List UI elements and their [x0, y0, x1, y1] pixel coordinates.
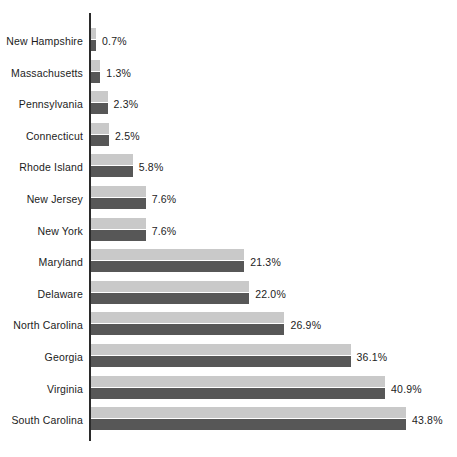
bar-light[interactable]: [91, 123, 109, 134]
category-label: New Hampshire: [0, 26, 83, 56]
bar-value-label: 21.3%: [250, 255, 281, 269]
bar-pair[interactable]: [91, 152, 133, 182]
bar-value-label: 5.8%: [139, 160, 164, 174]
bar-light[interactable]: [91, 249, 244, 260]
plot-area: New Hampshire0.7%Massachusetts1.3%Pennsy…: [0, 0, 457, 457]
bar-value-label: 0.7%: [102, 34, 127, 48]
category-label: Virginia: [0, 374, 83, 404]
bar-pair[interactable]: [91, 58, 100, 88]
bar-group[interactable]: Virginia40.9%: [0, 374, 457, 404]
bar-value-label: 40.9%: [391, 382, 422, 396]
bar-value-label: 2.3%: [114, 97, 139, 111]
bar-value-label: 43.8%: [412, 413, 443, 427]
bar-pair[interactable]: [91, 89, 108, 119]
bar-light[interactable]: [91, 376, 385, 387]
category-label: Pennsylvania: [0, 89, 83, 119]
bar-dark[interactable]: [91, 198, 146, 209]
bar-value-label: 1.3%: [106, 66, 131, 80]
bar-dark[interactable]: [91, 324, 284, 335]
bar-pair[interactable]: [91, 216, 146, 246]
category-label: New Jersey: [0, 184, 83, 214]
bar-dark[interactable]: [91, 135, 109, 146]
bar-pair[interactable]: [91, 279, 249, 309]
bar-chart: New Hampshire0.7%Massachusetts1.3%Pennsy…: [0, 0, 457, 457]
bar-value-label: 7.6%: [152, 192, 177, 206]
bar-group[interactable]: Connecticut2.5%: [0, 121, 457, 151]
bar-group[interactable]: Rhode Island5.8%: [0, 152, 457, 182]
bar-pair[interactable]: [91, 184, 146, 214]
bar-group[interactable]: Maryland21.3%: [0, 247, 457, 277]
bar-dark[interactable]: [91, 261, 244, 272]
bar-pair[interactable]: [91, 121, 109, 151]
bar-light[interactable]: [91, 344, 351, 355]
bar-light[interactable]: [91, 60, 100, 71]
bar-value-label: 36.1%: [357, 350, 388, 364]
category-label: New York: [0, 216, 83, 246]
bar-dark[interactable]: [91, 419, 406, 430]
bar-light[interactable]: [91, 281, 249, 292]
bar-dark[interactable]: [91, 388, 385, 399]
category-label: Delaware: [0, 279, 83, 309]
category-label: Connecticut: [0, 121, 83, 151]
bar-pair[interactable]: [91, 310, 284, 340]
bar-group[interactable]: North Carolina26.9%: [0, 310, 457, 340]
bar-dark[interactable]: [91, 356, 351, 367]
category-label: Georgia: [0, 342, 83, 372]
bar-dark[interactable]: [91, 293, 249, 304]
bar-light[interactable]: [91, 28, 96, 39]
bar-value-label: 2.5%: [115, 129, 140, 143]
bar-light[interactable]: [91, 407, 406, 418]
category-label: Massachusetts: [0, 58, 83, 88]
bar-light[interactable]: [91, 91, 108, 102]
bar-dark[interactable]: [91, 40, 96, 51]
bar-dark[interactable]: [91, 230, 146, 241]
bar-light[interactable]: [91, 186, 146, 197]
bar-light[interactable]: [91, 218, 146, 229]
category-label: Rhode Island: [0, 152, 83, 182]
bar-pair[interactable]: [91, 405, 406, 435]
bar-group[interactable]: New York7.6%: [0, 216, 457, 246]
bar-value-label: 7.6%: [152, 224, 177, 238]
bar-light[interactable]: [91, 154, 133, 165]
bar-group[interactable]: Georgia36.1%: [0, 342, 457, 372]
bar-group[interactable]: New Jersey7.6%: [0, 184, 457, 214]
bar-group[interactable]: Pennsylvania2.3%: [0, 89, 457, 119]
bar-group[interactable]: Delaware22.0%: [0, 279, 457, 309]
bar-value-label: 26.9%: [290, 318, 321, 332]
bar-dark[interactable]: [91, 166, 133, 177]
bar-dark[interactable]: [91, 103, 108, 114]
bar-pair[interactable]: [91, 342, 351, 372]
bar-pair[interactable]: [91, 26, 96, 56]
bar-pair[interactable]: [91, 374, 385, 404]
bar-light[interactable]: [91, 312, 284, 323]
category-label: South Carolina: [0, 405, 83, 435]
bar-group[interactable]: New Hampshire0.7%: [0, 26, 457, 56]
bar-pair[interactable]: [91, 247, 244, 277]
bar-group[interactable]: Massachusetts1.3%: [0, 58, 457, 88]
bar-group[interactable]: South Carolina43.8%: [0, 405, 457, 435]
bar-dark[interactable]: [91, 72, 100, 83]
bar-value-label: 22.0%: [255, 287, 286, 301]
category-label: Maryland: [0, 247, 83, 277]
category-label: North Carolina: [0, 310, 83, 340]
